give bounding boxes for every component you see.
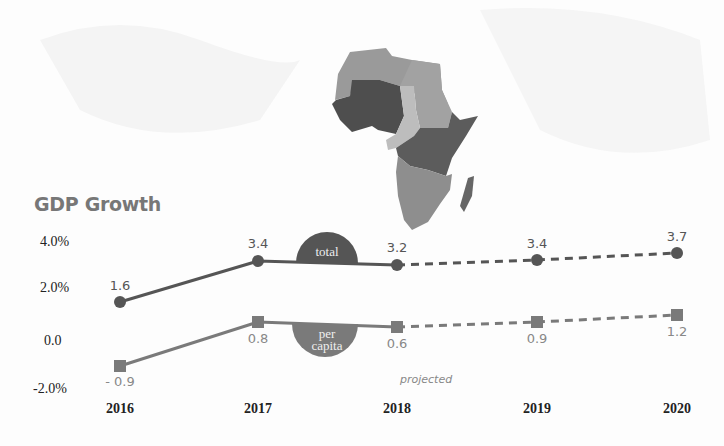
- x-tick-2019: 2019: [507, 401, 567, 417]
- projected-annotation: projected: [400, 373, 452, 386]
- total-label-2020: 3.7: [652, 229, 702, 244]
- per-capita-label-2016: - 0.9: [95, 374, 145, 389]
- total-label-2016: 1.6: [95, 278, 145, 293]
- per-capita-label-2017: 0.8: [233, 331, 283, 346]
- total-label-2018: 3.2: [372, 240, 422, 255]
- x-tick-2017: 2017: [228, 401, 288, 417]
- per-capita-label-2020: 1.2: [652, 324, 702, 339]
- x-tick-2016: 2016: [90, 401, 150, 417]
- gdp-growth-infographic: GDP Growth 4.0% 2.0% 0.0 -2.0% total per…: [0, 0, 724, 446]
- per-capita-label-2019: 0.9: [512, 331, 562, 346]
- per-capita-badge-line2: capita: [300, 339, 354, 352]
- x-tick-2020: 2020: [647, 401, 707, 417]
- x-tick-2018: 2018: [367, 401, 427, 417]
- total-label-2019: 3.4: [512, 236, 562, 251]
- total-label-2017: 3.4: [233, 236, 283, 251]
- per-capita-label-2018: 0.6: [372, 336, 422, 351]
- total-series-badge: total: [300, 245, 354, 258]
